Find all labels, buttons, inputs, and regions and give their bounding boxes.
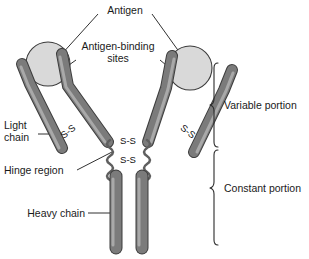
disulfide-bond-labels: S-S S-S S-S S-S: [58, 122, 198, 165]
label-variable-portion: Variable portion: [224, 99, 297, 111]
label-constant-portion: Constant portion: [224, 182, 301, 194]
heavy-chain-right-constant: [139, 176, 142, 248]
heavy-chain-left-constant: [113, 176, 116, 248]
label-antigen-binding-sites-line1: Antigen-binding: [82, 40, 155, 52]
label-antigen-binding-sites-line2: sites: [107, 52, 129, 64]
disulfide-label-hinge-lower: S-S: [120, 154, 136, 165]
diagram-canvas: Antigen Antigen-binding sites Light chai…: [0, 0, 309, 259]
portion-brackets: [210, 63, 218, 245]
disulfide-label-hinge-upper: S-S: [120, 135, 136, 146]
constant-portion-brace: [210, 150, 218, 245]
antibody-structure-diagram: Antigen Antigen-binding sites Light chai…: [0, 0, 309, 259]
label-hinge-region: Hinge region: [4, 164, 64, 176]
heavy-chain-right-variable: [148, 56, 174, 142]
label-light-chain-line1: Light: [4, 119, 27, 131]
label-heavy-chain: Heavy chain: [27, 207, 85, 219]
label-light-chain-line2: chain: [4, 131, 29, 143]
label-antigen: Antigen: [107, 4, 143, 16]
